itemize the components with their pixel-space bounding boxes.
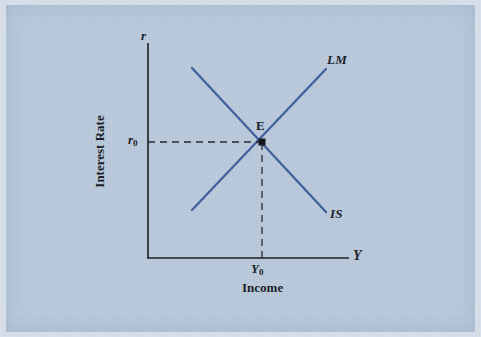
- isml-diagram-screenshot: r Y r0 Y0 E LM IS Income Interest Rate: [0, 0, 481, 337]
- lm-curve-label: LM: [327, 53, 347, 66]
- x-axis-symbol-label: Y: [353, 249, 362, 263]
- chart-canvas: [0, 0, 481, 337]
- y-axis-symbol-label: r: [141, 29, 146, 42]
- is-curve-label: IS: [330, 207, 343, 220]
- x-axis-title: Income: [242, 281, 283, 294]
- equilibrium-point-label: E: [256, 119, 265, 132]
- y-axis-title: Interest Rate: [93, 115, 106, 187]
- r0-tick-label: r0: [128, 133, 138, 148]
- equilibrium-point-marker: [259, 139, 266, 146]
- y0-subscript: 0: [259, 267, 264, 277]
- y0-base: Y: [251, 261, 259, 276]
- y0-tick-label: Y0: [251, 262, 263, 277]
- r0-subscript: 0: [133, 138, 138, 148]
